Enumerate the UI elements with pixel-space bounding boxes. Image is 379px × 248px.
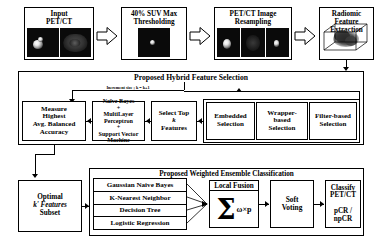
box-wrapper-selection: Wrapper- based Selection [256,102,308,140]
local-fusion-formula: Σ ω×p [217,191,252,227]
arrow-resampling-to-extraction [294,26,316,46]
models-line5: + [117,124,120,130]
box-filter-selection: Filter-based Selection [309,102,357,140]
classifier-gaussian-naive-bayes: Gaussian Naive Bayes [94,179,186,192]
models-line7: Machine [107,137,130,143]
arrow-input-to-threshold [96,26,118,46]
resampled-fused-hotspot [274,40,279,46]
stage-input-petct-caption: Input PET/CT [25,10,93,26]
connector-to-optimal-down [35,154,36,176]
stage-image-resampling: PET/CT Image Resampling [214,7,292,60]
stage-suv-thresholding-line1: 40% SUV Max [131,10,177,18]
pet-thumbnail [27,28,59,57]
threshold-thumbnail [138,28,170,57]
stage-suv-thresholding-caption: 40% SUV Max Thresholding [122,10,186,26]
box-optimal-feature-subset: Optimal k' Features Subset [18,180,82,232]
arrow-threshold-to-resampling [189,26,211,46]
models-line1: Naïve Bayes [103,98,135,104]
stage-image-resampling-line2: Resampling [235,18,271,26]
feature-selection-loop-label: Increment size ; k = k+1 [72,85,184,90]
classifier-decision-tree: Decision Tree [94,205,186,218]
arrowhead-selection-return [236,88,242,92]
stage-radiomic-extraction: Radiomic Feature Extraction [319,7,374,60]
selection-return-line [184,91,359,92]
sigma-symbol: Σ [217,196,236,223]
resampling-thumbnail-fused [266,28,289,57]
classifier-stack: Gaussian Naive Bayes K-Nearest Neighbor … [93,178,187,230]
stage-suv-thresholding-line2: Thresholding [133,18,174,26]
fan-in-connectors [187,178,209,230]
voting-line2: Voting [282,203,303,212]
measure-line4: Accuracy [40,128,68,136]
diagram-canvas: Input PET/CT 40% SUV Max Thresholding [0,0,379,248]
box-wrapper-selection-label: Wrapper- based Selection [267,110,297,133]
box-embedded-selection-label: Embedded Selection [214,113,246,128]
ct-thumbnail [60,28,92,57]
models-line4: Perceptron [104,118,133,124]
box-select-top-features: Select Top k Features [151,101,197,141]
arrowhead-to-optimal [32,174,38,178]
wrapper-line3: Selection [269,124,296,132]
resampling-thumbnail-pet [217,28,240,57]
arrowhead-fusion-to-voting [265,201,269,207]
input-thumbnails [27,28,91,57]
connector-panel1-exit-left [35,154,55,155]
pet-hotspot-small [38,37,43,42]
loop-line-top [72,90,184,91]
box-classify-output-label: Classify PET/CT pCR / npCR [326,185,360,224]
optimal-line3: Subset [40,209,60,217]
connector-panel1-exit-down [54,145,55,154]
classifier-knn: K-Nearest Neighbor [94,192,186,205]
classify-line2: PET/CT [330,191,356,199]
stage-input-petct-line1: Input [50,10,67,18]
resampling-thumbnails [217,28,289,57]
box-local-fusion: Local Fusion Σ ω×p [209,180,259,228]
box-select-top-features-label: Select Top k Features [159,110,190,133]
box-filter-selection-label: Filter-based Selection [315,113,351,128]
classify-line3: pCR / npCR [334,207,352,223]
loop-line-right-up [184,82,185,90]
classifier-logistic-regression: Logistic Regression [94,217,186,229]
ct-body-shape [64,34,87,52]
box-soft-voting: Soft Voting [270,180,314,228]
arrowhead-voting-to-classify [320,201,324,207]
threshold-thumbnails [138,28,170,57]
box-embedded-selection: Embedded Selection [206,102,255,140]
box-classify-output: Classify PET/CT pCR / npCR [325,180,361,228]
embedded-line2: Selection [217,120,244,128]
radiomics-cube-icon [320,22,374,52]
box-soft-voting-label: Soft Voting [282,196,303,212]
stage-image-resampling-line1: PET/CT Image [230,10,277,18]
box-optimal-feature-subset-label: Optimal k' Features Subset [33,194,67,217]
panel-hybrid-feature-selection-title: Proposed Hybrid Feature Selection [19,73,363,82]
models-line3: MultiLayer [103,111,133,117]
stage-suv-thresholding: 40% SUV Max Thresholding [121,7,187,60]
weight-probability-terms: ω×p [237,205,252,214]
box-base-models-label: Naïve Bayes + MultiLayer Perceptron + Su… [99,98,139,143]
resampled-ct-shape [246,34,260,50]
resampled-hotspot [223,39,231,49]
stage-input-petct-line2: PET/CT [46,18,72,26]
resampling-thumbnail-ct [241,28,264,57]
stage-input-petct: Input PET/CT [24,7,94,60]
threshold-hotspot [150,40,155,46]
panel-weighted-ensemble-title: Proposed Weighted Ensemble Classificatio… [90,170,363,178]
models-line6: Support Vector [99,131,139,137]
models-line2: + [117,105,120,111]
selecttop-line3: Features [161,124,187,132]
stage-image-resampling-caption: PET/CT Image Resampling [215,10,291,26]
filter-line2: Selection [320,120,347,128]
box-measure-accuracy: Measure Highest Avg. Balanced Accuracy [22,101,86,141]
box-base-models: Naïve Bayes + MultiLayer Perceptron + Su… [92,101,145,141]
local-fusion-caption: Local Fusion [210,181,258,191]
box-measure-accuracy-label: Measure Highest Avg. Balanced Accuracy [33,106,76,136]
